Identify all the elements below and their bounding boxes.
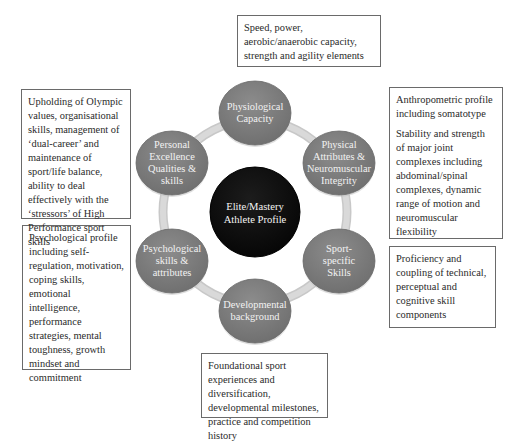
node-label-line: Skills [327, 267, 351, 278]
node-label-line: Physiological [227, 101, 284, 112]
node-label-line: skills [161, 175, 183, 186]
node-psychological: Psychologicalskills &attributes [136, 229, 208, 295]
physical-attributes-description: Anthropometric profile including somatot… [389, 87, 503, 239]
node-label-line: Psychological [143, 243, 201, 254]
node-label-line: Sport- [326, 243, 353, 254]
description-text: Proficiency and coupling of technical, p… [396, 252, 489, 322]
node-label: Developmentalbackground [223, 299, 287, 322]
description-text: Psychological profile including self-reg… [29, 231, 124, 385]
center-label-line: Elite/Mastery [226, 201, 284, 212]
center-circle [210, 167, 300, 257]
node-label-line: Integrity [321, 175, 358, 186]
personal-excellence-description: Upholding of Olympic values, organisatio… [21, 89, 131, 219]
center-node: Elite/MasteryAthlete Profile [210, 167, 300, 257]
description-text: Foundational sport experiences and diver… [208, 359, 321, 443]
node-label-line: skills & [156, 255, 189, 266]
node-label-line: attributes [153, 267, 192, 278]
node-physical: PhysicalAttributes &NeuromuscularIntegri… [303, 131, 375, 197]
node-label-line: Neuromuscular [307, 163, 372, 174]
node-label-line: Attributes & [313, 151, 365, 162]
node-label-line: Capacity [237, 113, 275, 124]
description-text: Anthropometric profile including somatot… [396, 93, 496, 121]
description-text: Upholding of Olympic values, organisatio… [28, 95, 124, 249]
node-personal: PersonalExcellenceQualities &skills [136, 131, 208, 197]
center-label-line: Athlete Profile [224, 214, 287, 225]
node-label: Sport-specificSkills [323, 243, 356, 278]
description-text: Stability and strength of major joint co… [396, 127, 496, 239]
node-sport-specific: Sport-specificSkills [303, 229, 375, 295]
node-label-line: background [230, 311, 280, 322]
node-label-line: Developmental [223, 299, 287, 310]
physiological-capacity-description: Speed, power, aerobic/anaerobic capacity… [237, 15, 381, 67]
developmental-background-description: Foundational sport experiences and diver… [201, 353, 328, 418]
node-developmental: Developmentalbackground [219, 279, 291, 345]
node-label-line: Personal [154, 139, 190, 150]
node-label-line: Excellence [149, 151, 195, 162]
node-physiological: PhysiologicalCapacity [219, 81, 291, 147]
sport-specific-skills-description: Proficiency and coupling of technical, p… [389, 246, 496, 328]
node-label-line: Qualities & [148, 163, 196, 174]
node-label-line: specific [323, 255, 356, 266]
node-label-line: Physical [321, 139, 356, 150]
description-text: Speed, power, aerobic/anaerobic capacity… [244, 21, 374, 63]
